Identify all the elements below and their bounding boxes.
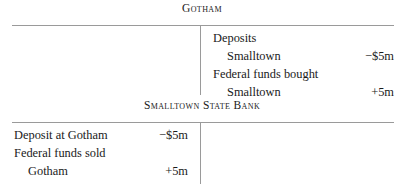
account-left-side: Deposit at Gotham −$5m Federal funds sol… [0,126,200,180]
t-account-diagram: { "accounts": [ { "title": "Gotham", "le… [0,0,404,185]
account-vertical-divider [200,122,201,184]
entry-row: Federal funds sold [0,144,200,162]
account-title-smalltown-state-bank: Smalltown State Bank [0,99,404,111]
entry-label: Federal funds sold [14,144,106,162]
account-title-gotham: Gotham [0,2,404,14]
entry-amount: −$5m [88,126,188,144]
entry-row: Deposit at Gotham −$5m [0,126,200,144]
entry-row: Federal funds bought [200,65,404,83]
account-top-rule [12,122,394,123]
entry-label: Gotham [28,162,68,180]
entry-label: Deposits [213,29,256,47]
entry-label: Federal funds bought [213,65,318,83]
entry-row: Gotham +5m [0,162,200,180]
account-right-side: Deposits Smalltown −$5m Federal funds bo… [200,29,404,101]
entry-row: Smalltown −$5m [200,47,404,65]
account-top-rule [12,25,394,26]
t-account-smalltown-state-bank: Smalltown State Bank Deposit at Gotham −… [0,97,404,185]
entry-amount: +5m [88,162,188,180]
t-account-gotham: Gotham Deposits Smalltown −$5m Federal f… [0,0,404,97]
entry-row: Deposits [200,29,404,47]
entry-amount: −$5m [290,47,394,65]
entry-label: Smalltown [227,47,281,65]
